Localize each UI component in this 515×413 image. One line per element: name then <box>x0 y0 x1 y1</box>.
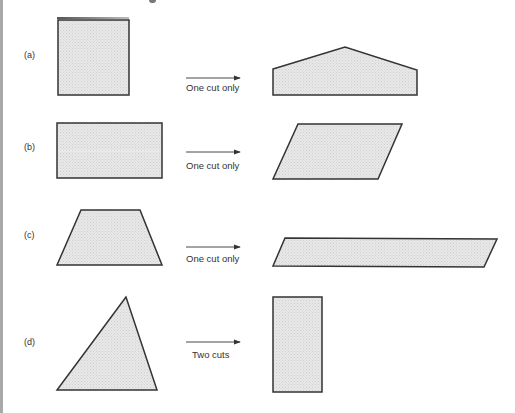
source-rectangle <box>57 123 162 178</box>
target-tall-rectangle <box>273 297 322 392</box>
row-d <box>57 297 322 392</box>
row-label-b: (b) <box>24 142 35 152</box>
row-label-a: (a) <box>24 50 35 60</box>
operation-label-a: One cut only <box>186 82 239 93</box>
operation-label-c: One cut only <box>186 253 239 264</box>
source-square <box>58 20 129 95</box>
operation-label-b: One cut only <box>186 160 239 171</box>
source-triangle <box>57 297 157 390</box>
row-label-c: (c) <box>24 230 35 240</box>
target-parallelogram <box>273 124 402 179</box>
dissection-diagram <box>0 0 515 413</box>
operation-label-d: Two cuts <box>192 349 230 360</box>
target-long-parallelogram <box>273 238 497 267</box>
row-label-d: (d) <box>24 337 35 347</box>
source-trapezoid <box>57 210 162 265</box>
target-pentagon <box>273 47 417 95</box>
row-c <box>57 210 497 267</box>
